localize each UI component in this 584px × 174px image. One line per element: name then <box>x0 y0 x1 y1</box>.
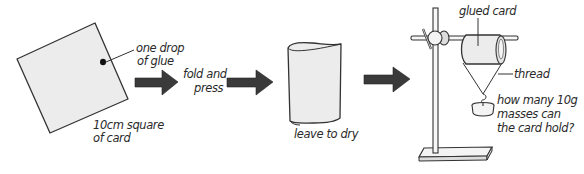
folded-card: leave to dry <box>288 43 359 141</box>
arrow-right-icon <box>227 70 273 95</box>
arrow-right-icon <box>364 67 410 92</box>
question-line3: the card hold? <box>497 121 574 135</box>
stand-rod <box>433 8 438 153</box>
glued-card-label: glued card <box>459 4 517 18</box>
thread-left <box>463 63 483 94</box>
glue-label-line2: of glue <box>137 54 174 68</box>
folded-card-shape <box>288 43 341 124</box>
question-line2: masses can <box>497 107 561 121</box>
card-label-line2: of card <box>93 131 131 145</box>
thread-label: thread <box>514 67 551 81</box>
glue-label-line1: one drop <box>136 41 184 55</box>
fold-label-line1: fold and <box>183 67 228 81</box>
retort-stand: glued card thread how many 10g masses ca… <box>411 4 578 161</box>
dry-label: leave to dry <box>294 127 359 141</box>
glue-drop-icon <box>100 59 106 65</box>
glue-leader-line <box>106 50 134 62</box>
card-label-line1: 10cm square <box>93 118 164 132</box>
mass-hanger <box>472 103 494 117</box>
question-line1: how many 10g <box>497 93 578 107</box>
experiment-diagram: one drop of glue 10cm square of card fol… <box>0 0 584 174</box>
arrow-right-icon <box>135 70 178 95</box>
stand-base-edge <box>419 156 487 161</box>
fold-step: fold and press <box>183 67 228 95</box>
thread-right <box>483 63 502 94</box>
square-card-shape <box>17 23 128 133</box>
glued-card-tube <box>462 35 507 64</box>
stand-base <box>419 147 492 157</box>
fold-label-line2: press <box>193 81 223 95</box>
